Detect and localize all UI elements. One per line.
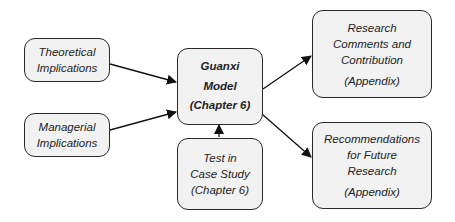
node-recommendations: Recommendations for Future Research (App… — [312, 122, 432, 209]
node-label-line: Recommendations — [324, 131, 420, 147]
edge-managerial-to-guanxi — [110, 112, 176, 130]
node-label-line: Case Study — [190, 166, 249, 182]
node-label-line: Implications — [37, 135, 98, 151]
node-research-comments: Research Comments and Contribution (Appe… — [312, 10, 432, 98]
node-label-line: (Appendix) — [344, 184, 400, 200]
node-label-line: Comments and — [333, 36, 411, 52]
edge-theoretical-to-guanxi — [110, 64, 176, 82]
node-theoretical-implications: Theoretical Implications — [24, 38, 110, 82]
node-label-line: Guanxi — [201, 57, 240, 77]
node-label-line: Test in — [203, 150, 236, 166]
node-label-line: (Chapter 6) — [190, 96, 251, 116]
edge-guanxi-to-recommendations — [262, 114, 311, 157]
node-guanxi-model: Guanxi Model (Chapter 6) — [177, 48, 263, 125]
node-label-line: Contribution — [341, 52, 403, 68]
node-label-line: (Appendix) — [344, 73, 400, 89]
edge-guanxi-to-research-comments — [263, 56, 311, 89]
node-label-line: Implications — [37, 60, 98, 76]
node-label-line: Managerial — [39, 119, 96, 135]
node-label-line: Research — [347, 163, 396, 179]
node-label-line: (Chapter 6) — [191, 182, 249, 198]
node-label-line: Theoretical — [39, 44, 96, 60]
node-label-line: Research — [347, 20, 396, 36]
node-label-line: Model — [203, 77, 236, 97]
node-label-line: for Future — [347, 147, 397, 163]
node-managerial-implications: Managerial Implications — [24, 113, 110, 157]
node-test-in-case-study: Test in Case Study (Chapter 6) — [177, 138, 263, 210]
